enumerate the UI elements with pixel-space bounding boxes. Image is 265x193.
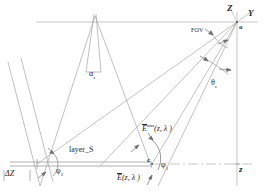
alpha-wedge-right-line <box>96 14 101 72</box>
phi1-angle-arc <box>152 140 161 170</box>
ray-o-to-c <box>152 22 237 164</box>
e-max-arguments: (z, λ ) <box>154 124 172 133</box>
axis-label-y: Y <box>248 9 254 18</box>
c-point-dot <box>151 163 153 165</box>
diagram-vector-layer <box>0 0 265 193</box>
phi2-arrow-head <box>48 148 54 154</box>
phi1-angle-label: φ1 <box>161 161 168 171</box>
axis-label-z-up: Z <box>227 4 233 13</box>
apex-ray-to-c <box>95 16 152 168</box>
delta-z-label: ΔZ <box>5 170 14 178</box>
ray-o-to-midlayer <box>100 22 237 166</box>
fov-arrow <box>205 29 213 35</box>
alpha-subscript: s <box>93 75 95 80</box>
origin-dot <box>236 21 238 23</box>
c-point-label: c <box>147 157 150 164</box>
e-max-field-label: Emax(z, λ ) <box>142 124 172 133</box>
axis-label-z-bottom: z <box>239 165 243 174</box>
apex-ray-to-layer-left <box>40 16 95 186</box>
origin-label: o <box>239 24 243 31</box>
phi2-angle-label: φ2 <box>56 167 63 177</box>
theta-arc <box>206 59 228 74</box>
phi2-lower-arrow <box>38 172 46 178</box>
e-field-arrow <box>147 175 152 185</box>
e-max-superscript: max <box>147 123 154 128</box>
phi1-subscript: 1 <box>166 166 169 171</box>
slab-left-boundary-line <box>8 62 40 186</box>
diagram-canvas: Z Y o z FOV θs αs φ1 φ2 c layer_S ΔZ Ema… <box>0 0 265 193</box>
phi2-subscript: 2 <box>61 172 64 177</box>
e-max-field-arrow <box>131 145 139 152</box>
theta-angle-label: θs <box>211 79 217 89</box>
alpha-angle-label: αs <box>89 70 95 80</box>
theta-subscript: s <box>215 84 217 89</box>
e-arguments: (z, λ ) <box>122 173 140 182</box>
ray-o-to-layer-left <box>37 22 237 164</box>
phi1-arrow-head <box>148 133 153 140</box>
fov-label: FOV <box>191 27 204 33</box>
layer-label: layer_S <box>69 146 93 154</box>
e-field-label: E(z, λ ) <box>117 173 140 182</box>
